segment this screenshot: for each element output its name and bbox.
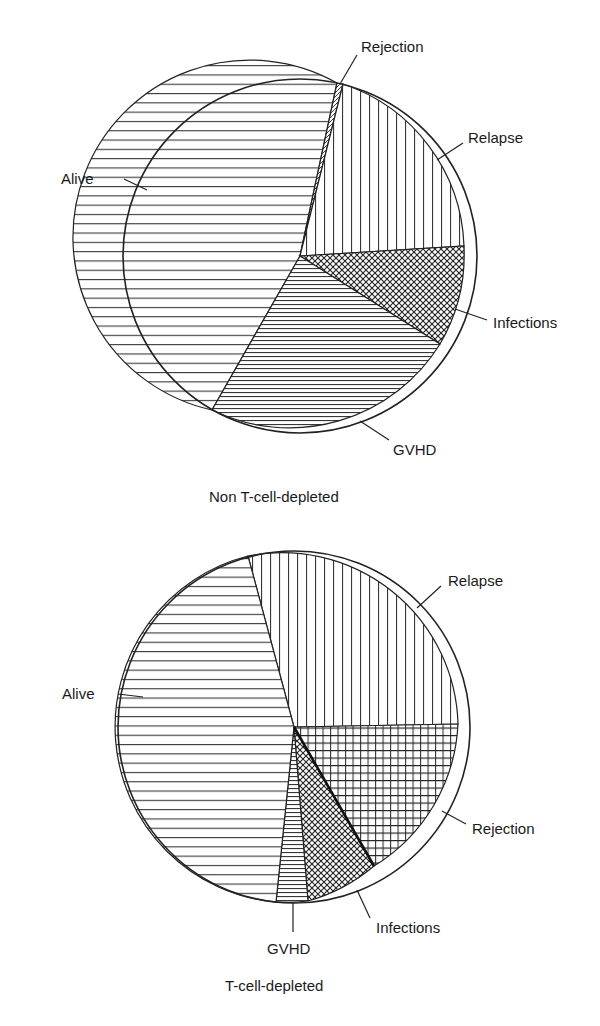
leader-line-rejection: [340, 55, 357, 84]
leader-line-relapse: [437, 143, 463, 160]
label-gvhd: GVHD: [393, 441, 437, 458]
figure: Rejection Relapse Infections GVHD Alive …: [0, 0, 600, 1026]
leader-line-gvhd: [360, 421, 389, 440]
pie-chart-non-t-cell-depleted: Rejection Relapse Infections GVHD Alive …: [61, 38, 557, 505]
label-relapse: Relapse: [448, 572, 503, 589]
label-rejection: Rejection: [472, 820, 535, 837]
pie-chart-t-cell-depleted: Relapse Rejection Infections GVHD Alive …: [62, 551, 535, 994]
leader-line-infections: [357, 890, 370, 918]
label-infections: Infections: [376, 919, 440, 936]
label-rejection: Rejection: [361, 38, 424, 55]
label-relapse: Relapse: [468, 129, 523, 146]
leader-line-infections: [455, 309, 487, 320]
label-gvhd: GVHD: [267, 940, 311, 957]
label-alive: Alive: [61, 170, 94, 187]
label-infections: Infections: [493, 314, 557, 331]
leader-line-relapse: [417, 586, 441, 608]
caption-non-t-cell-depleted: Non T-cell-depleted: [209, 488, 339, 505]
caption-t-cell-depleted: T-cell-depleted: [225, 977, 323, 994]
label-alive: Alive: [62, 685, 95, 702]
